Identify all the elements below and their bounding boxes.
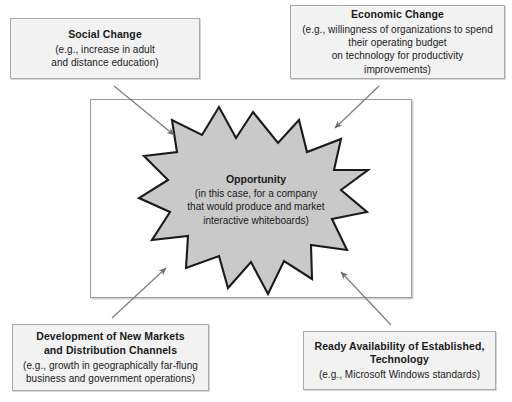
factor-title-new-markets: Development of New Markets and Distribut… (36, 330, 184, 358)
factor-box-social-change: Social Change (e.g., increase in adult a… (10, 18, 200, 79)
factor-detail-economic-change: (e.g., willingness of organizations to s… (297, 23, 498, 76)
factor-detail-new-markets: (e.g., growth in geographically far-flun… (23, 359, 198, 385)
factor-detail-social-change: (e.g., increase in adult and distance ed… (51, 43, 158, 69)
factor-detail-ready-technology: (e.g., Microsoft Windows standards) (319, 368, 480, 381)
factor-box-new-markets: Development of New Markets and Distribut… (12, 324, 209, 391)
burst-text-group: Opportunity (in this case, for a company… (166, 172, 346, 227)
factor-box-ready-technology: Ready Availability of Established, Techn… (303, 331, 496, 390)
factor-title-ready-technology: Ready Availability of Established, Techn… (314, 340, 484, 368)
factor-box-economic-change: Economic Change (e.g., willingness of or… (290, 5, 505, 79)
diagram-canvas: Opportunity (in this case, for a company… (0, 0, 512, 402)
factor-title-economic-change: Economic Change (351, 8, 444, 22)
factor-title-social-change: Social Change (68, 28, 142, 42)
burst-title: Opportunity (166, 172, 346, 186)
burst-detail: (in this case, for a company that would … (166, 187, 346, 227)
